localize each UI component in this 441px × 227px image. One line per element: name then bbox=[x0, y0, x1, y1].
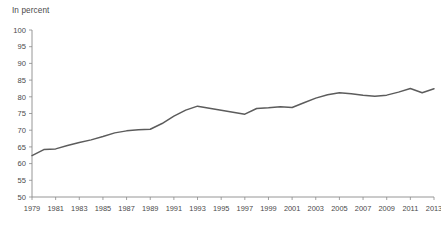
x-axis-tick-label: 1999 bbox=[260, 204, 276, 213]
x-axis-tick-label: 1993 bbox=[189, 204, 205, 213]
x-axis-tick-label: 1987 bbox=[118, 204, 134, 213]
line-chart-svg: 50556065707580859095100 1979198119831985… bbox=[0, 0, 441, 227]
chart-container: In percent 50556065707580859095100 19791… bbox=[0, 0, 441, 227]
x-axis-tick-label: 1979 bbox=[24, 204, 40, 213]
y-axis-tick-label: 55 bbox=[18, 176, 26, 185]
y-axis-tick-label: 100 bbox=[13, 26, 26, 35]
y-axis-tick-label: 70 bbox=[18, 126, 26, 135]
x-axis-tick-label: 1997 bbox=[237, 204, 253, 213]
x-axis-tick-label: 2005 bbox=[331, 204, 347, 213]
x-axis-tick-label: 1989 bbox=[142, 204, 158, 213]
x-axis-tick-label: 1991 bbox=[166, 204, 182, 213]
y-axis-tick-label: 80 bbox=[18, 93, 26, 102]
x-axis-tick-label: 1995 bbox=[213, 204, 229, 213]
y-axis-tick-label: 60 bbox=[18, 159, 26, 168]
y-axis-tick-label: 65 bbox=[18, 143, 26, 152]
x-axis-tick-group: 1979198119831985198719891991199319951997… bbox=[24, 197, 441, 213]
x-axis-tick-label: 1983 bbox=[71, 204, 87, 213]
plot-area: 50556065707580859095100 1979198119831985… bbox=[0, 0, 441, 227]
x-axis-tick-label: 2009 bbox=[378, 204, 394, 213]
x-axis-tick-label: 1985 bbox=[95, 204, 111, 213]
y-axis-tick-label: 85 bbox=[18, 76, 26, 85]
y-axis-tick-label: 50 bbox=[18, 193, 26, 202]
x-axis-tick-label: 2007 bbox=[355, 204, 371, 213]
x-axis-tick-label: 2001 bbox=[284, 204, 300, 213]
x-axis-tick-label: 2013 bbox=[426, 204, 441, 213]
y-axis-tick-label: 95 bbox=[18, 42, 26, 51]
y-axis-tick-label: 90 bbox=[18, 59, 26, 68]
x-axis-tick-label: 2003 bbox=[308, 204, 324, 213]
y-axis-tick-group: 50556065707580859095100 bbox=[13, 26, 32, 202]
x-axis-tick-label: 1981 bbox=[47, 204, 63, 213]
data-series-line bbox=[32, 88, 434, 155]
y-axis-tick-label: 75 bbox=[18, 109, 26, 118]
x-axis-tick-label: 2011 bbox=[402, 204, 418, 213]
